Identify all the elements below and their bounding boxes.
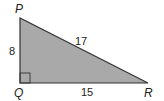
- vertex-label-r: R: [144, 86, 153, 100]
- triangle-pqr: [20, 18, 148, 83]
- side-label-pq: 8: [9, 45, 15, 57]
- side-label-pr: 17: [75, 35, 87, 47]
- side-label-qr: 15: [81, 86, 93, 98]
- triangle-diagram: P Q R 8 17 15: [0, 0, 164, 101]
- vertex-label-q: Q: [14, 86, 23, 100]
- vertex-label-p: P: [15, 2, 23, 16]
